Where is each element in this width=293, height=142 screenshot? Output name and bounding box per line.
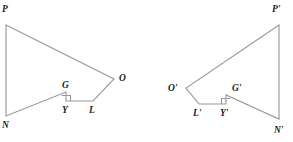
vertex-label-n: N <box>1 120 10 130</box>
figure-left-group: P O L Y G N <box>1 4 126 130</box>
geometry-diagram-canvas: P O L Y G N P' O' L' Y' G' N' <box>0 0 293 142</box>
vertex-label-g-prime: G' <box>232 83 242 93</box>
vertex-label-y-prime: Y' <box>220 108 229 118</box>
vertex-label-p-prime: P' <box>272 4 281 14</box>
vertex-label-p: P <box>2 4 8 14</box>
vertex-label-o-prime: O' <box>168 83 178 93</box>
vertex-label-n-prime: N' <box>273 125 284 135</box>
vertex-label-l: L <box>88 105 95 115</box>
vertex-label-g: G <box>62 80 69 90</box>
figure-left-outline <box>6 25 114 116</box>
figure-right-group: P' O' L' Y' G' N' <box>168 4 284 135</box>
vertex-label-y: Y <box>62 105 69 115</box>
figure-right-outline <box>186 25 279 119</box>
vertex-label-l-prime: L' <box>192 108 202 118</box>
vertex-label-o: O <box>119 73 126 83</box>
